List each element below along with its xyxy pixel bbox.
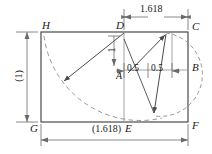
vertex-label-D: D xyxy=(116,20,124,31)
vertex-label-G: G xyxy=(30,123,38,134)
dim-label-half-left: 0.5 xyxy=(127,64,139,74)
vertex-label-C: C xyxy=(192,21,199,32)
vertex-label-A: A xyxy=(116,71,122,81)
arc-small-dashed xyxy=(155,33,202,116)
geometry-diagram: H D C A B G E F 1.618 (1) (1.618) 1 0.5 … xyxy=(0,0,212,154)
dim-label-left-height: (1) xyxy=(14,66,24,86)
dim-halves xyxy=(116,63,180,78)
vertex-label-E: E xyxy=(125,123,132,134)
dim-label-top-width: 1.618 xyxy=(140,4,163,14)
radius-top-to-arc-bottom xyxy=(154,34,166,113)
vertex-label-H: H xyxy=(42,20,50,31)
dim-label-half-right: 0.5 xyxy=(151,64,163,74)
line-D-slant xyxy=(124,39,154,113)
vertex-label-F: F xyxy=(192,120,199,131)
vertex-label-B: B xyxy=(192,62,199,73)
dim-label-bottom-width: (1.618) xyxy=(92,124,121,134)
arc-large-dashed xyxy=(44,36,162,120)
radius-D-to-arc xyxy=(64,33,124,81)
dim-label-vertical-one: 1 xyxy=(107,43,117,57)
